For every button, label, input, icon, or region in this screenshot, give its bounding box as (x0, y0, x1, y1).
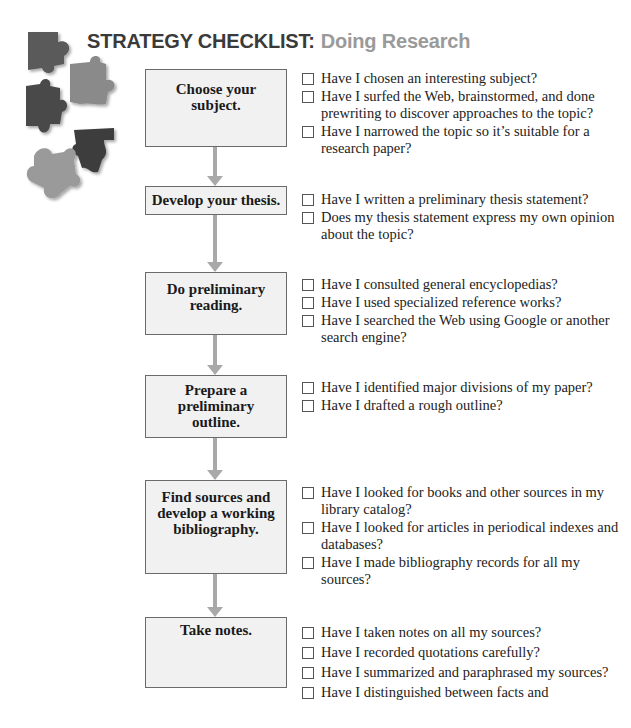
arrow-down-icon (212, 334, 218, 375)
checkbox[interactable] (302, 194, 314, 206)
checklist-find-sources: Have I looked for books and other source… (301, 484, 631, 589)
checklist-item: Does my thesis statement express my own … (301, 209, 631, 243)
checklist-item: Have I surfed the Web, brainstormed, and… (301, 88, 631, 122)
checkbox[interactable] (302, 73, 314, 85)
checklist-item: Have I distinguished between facts and (301, 683, 631, 702)
step-box-find-sources: Find sources and develop a working bibli… (145, 480, 287, 574)
step-label: Take notes. (180, 622, 252, 638)
step-label: Do preliminary reading. (167, 281, 265, 313)
checklist-take-notes: Have I taken notes on all my sources? Ha… (301, 623, 631, 703)
step-box-preliminary-outline: Prepare a preliminary outline. (145, 375, 287, 438)
step-label: Choose your subject. (176, 81, 256, 113)
checklist-item: Have I chosen an interesting subject? (301, 70, 631, 87)
step-label: Find sources and develop a working bibli… (157, 489, 275, 537)
checkbox[interactable] (302, 126, 314, 138)
checkbox[interactable] (302, 627, 314, 639)
checklist-item: Have I summarized and paraphrased my sou… (301, 663, 631, 682)
checkbox[interactable] (302, 487, 314, 499)
checklist-item: Have I taken notes on all my sources? (301, 623, 631, 642)
step-box-preliminary-reading: Do preliminary reading. (145, 272, 287, 335)
arrow-down-icon (212, 437, 218, 480)
title-main: STRATEGY CHECKLIST: (87, 30, 315, 52)
checkbox[interactable] (302, 522, 314, 534)
arrow-down-icon (212, 146, 218, 186)
checkbox[interactable] (302, 382, 314, 394)
step-box-choose-subject: Choose your subject. (145, 69, 287, 147)
checklist-item: Have I made bibliography records for all… (301, 554, 631, 588)
checkbox[interactable] (302, 212, 314, 224)
arrow-down-icon (212, 573, 218, 617)
checklist-item: Have I looked for articles in periodical… (301, 519, 631, 553)
step-box-develop-thesis: Develop your thesis. (145, 186, 287, 215)
checklist-item: Have I searched the Web using Google or … (301, 312, 631, 346)
checklist-preliminary-reading: Have I consulted general encyclopedias? … (301, 276, 631, 347)
checkbox[interactable] (302, 279, 314, 291)
arrow-down-icon (212, 214, 218, 272)
checklist-item: Have I used specialized reference works? (301, 294, 631, 311)
checkbox[interactable] (302, 687, 314, 699)
checklist-choose-subject: Have I chosen an interesting subject? Ha… (301, 70, 631, 158)
puzzle-pieces-icon (20, 28, 145, 208)
checkbox[interactable] (302, 91, 314, 103)
checklist-item: Have I identified major divisions of my … (301, 379, 631, 396)
checklist-item: Have I looked for books and other source… (301, 484, 631, 518)
step-box-take-notes: Take notes. (145, 617, 287, 688)
checklist-preliminary-outline: Have I identified major divisions of my … (301, 379, 631, 415)
page-title: STRATEGY CHECKLIST:Doing Research (87, 30, 470, 53)
checklist-item: Have I narrowed the topic so it’s suitab… (301, 123, 631, 157)
checkbox[interactable] (302, 557, 314, 569)
checklist-item: Have I consulted general encyclopedias? (301, 276, 631, 293)
checkbox[interactable] (302, 315, 314, 327)
checkbox[interactable] (302, 297, 314, 309)
checklist-item: Have I recorded quotations carefully? (301, 643, 631, 662)
checkbox[interactable] (302, 647, 314, 659)
checklist-develop-thesis: Have I written a preliminary thesis stat… (301, 191, 631, 244)
title-sub: Doing Research (321, 30, 470, 52)
step-label: Prepare a preliminary outline. (178, 382, 254, 430)
step-label: Develop your thesis. (152, 192, 280, 208)
checkbox[interactable] (302, 667, 314, 679)
checklist-item: Have I drafted a rough outline? (301, 397, 631, 414)
checkbox[interactable] (302, 400, 314, 412)
checklist-item: Have I written a preliminary thesis stat… (301, 191, 631, 208)
